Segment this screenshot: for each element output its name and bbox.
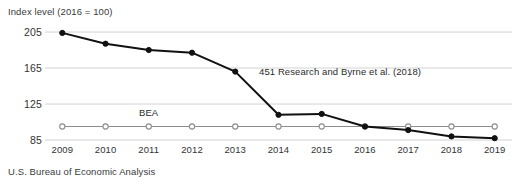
data-point-marker — [103, 124, 108, 129]
data-point-marker — [276, 124, 281, 129]
x-tick-label: 2017 — [387, 144, 429, 155]
x-tick-label: 2013 — [214, 144, 256, 155]
data-point-marker — [103, 41, 108, 46]
data-point-marker — [276, 112, 281, 117]
data-point-marker — [189, 50, 194, 55]
y-tick-label: 125 — [6, 98, 42, 110]
line-chart-plot — [0, 0, 522, 185]
x-tick-label: 2009 — [41, 144, 83, 155]
x-tick-label: 2015 — [301, 144, 343, 155]
data-point-marker — [60, 124, 65, 129]
data-point-marker — [60, 30, 65, 35]
data-point-marker — [146, 124, 151, 129]
x-tick-label: 2011 — [128, 144, 170, 155]
data-point-marker — [492, 136, 497, 141]
x-tick-label: 2019 — [474, 144, 516, 155]
x-tick-label: 2018 — [430, 144, 472, 155]
data-point-marker — [189, 124, 194, 129]
x-tick-label: 2014 — [258, 144, 300, 155]
y-tick-label: 205 — [6, 26, 42, 38]
series-label-bea: BEA — [139, 107, 158, 118]
data-point-marker — [146, 47, 151, 52]
data-point-marker — [449, 124, 454, 129]
data-point-marker — [406, 128, 411, 133]
data-point-marker — [362, 124, 367, 129]
series-line — [62, 33, 494, 138]
data-point-marker — [319, 124, 324, 129]
series-label-451-research: 451 Research and Byrne et al. (2018) — [259, 66, 421, 77]
data-point-marker — [319, 111, 324, 116]
y-tick-label: 85 — [6, 134, 42, 146]
x-tick-label: 2010 — [85, 144, 127, 155]
y-tick-label: 165 — [6, 62, 42, 74]
data-point-marker — [233, 69, 238, 74]
x-tick-label: 2012 — [171, 144, 213, 155]
source-note: U.S. Bureau of Economic Analysis — [8, 166, 155, 177]
data-point-marker — [449, 134, 454, 139]
data-point-marker — [492, 124, 497, 129]
data-point-marker — [233, 124, 238, 129]
chart-container: Index level (2016 = 100) 85125165205 200… — [0, 0, 522, 185]
x-tick-label: 2016 — [344, 144, 386, 155]
